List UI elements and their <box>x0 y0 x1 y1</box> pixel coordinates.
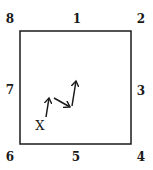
position-label-bottom-right: 4 <box>137 151 145 163</box>
arrow-up <box>46 98 49 117</box>
position-label-middle-left: 7 <box>6 84 14 96</box>
position-label-bottom-left: 6 <box>6 151 14 163</box>
position-label-top-center: 1 <box>73 13 81 25</box>
arrow-down-right <box>54 98 70 107</box>
position-label-bottom-center: 5 <box>72 151 80 163</box>
path-arrows <box>46 81 76 117</box>
start-marker-x: X <box>35 119 44 132</box>
position-label-top-right: 2 <box>137 13 145 25</box>
position-label-middle-right: 3 <box>137 85 145 97</box>
arrow-up <box>72 81 76 106</box>
position-label-top-left: 8 <box>6 13 14 25</box>
